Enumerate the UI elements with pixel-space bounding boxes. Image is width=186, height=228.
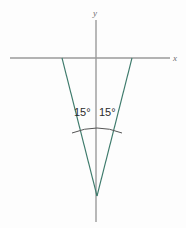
geometry-figure: y x 15° 15° [0, 0, 186, 228]
right-ray [97, 58, 132, 196]
figure-canvas: y x 15° 15° [0, 0, 186, 228]
y-axis-label: y [92, 8, 97, 18]
left-ray [62, 58, 97, 196]
angle-label-left: 15° [74, 106, 91, 118]
x-axis-label: x [172, 53, 177, 63]
angle-label-right: 15° [99, 106, 116, 118]
